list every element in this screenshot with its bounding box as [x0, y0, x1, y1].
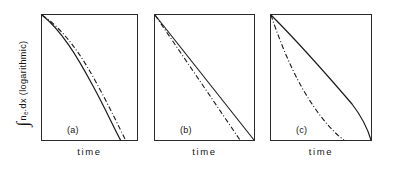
- panel-a-curve-dashdot: [42, 15, 126, 141]
- panel-b-letter: (b): [180, 125, 192, 135]
- panel-b-x-axis-label: time: [154, 146, 255, 157]
- panel-c-letter: (c): [296, 125, 307, 135]
- panel-b-plot: [154, 14, 255, 141]
- panel-c-plot: [270, 14, 372, 141]
- y-axis-label: ∫ne.dx (logarithmic): [18, 9, 29, 159]
- panel-c: (c): [270, 14, 372, 141]
- panel-a: (a): [41, 14, 138, 141]
- integral-sign-icon: ∫: [13, 120, 32, 126]
- panel-a-x-axis-label: time: [41, 146, 138, 157]
- panel-a-curve-solid: [42, 15, 121, 141]
- y-axis-label-rest: .dx (logarithmic): [18, 41, 28, 112]
- panel-a-letter: (a): [67, 125, 79, 135]
- figure-canvas: ∫ne.dx (logarithmic) (a) time (b) time (…: [0, 0, 393, 169]
- panel-c-x-axis-label: time: [270, 146, 372, 157]
- panel-c-curve-solid: [271, 15, 371, 140]
- panel-c-curve-dashdot: [271, 15, 344, 140]
- y-axis-label-subscript: e: [22, 111, 29, 115]
- panel-b: (b): [154, 14, 255, 141]
- panel-b-curve-solid: [155, 15, 254, 140]
- panel-a-plot: [41, 14, 138, 141]
- panel-b-curve-dashdot: [155, 15, 240, 140]
